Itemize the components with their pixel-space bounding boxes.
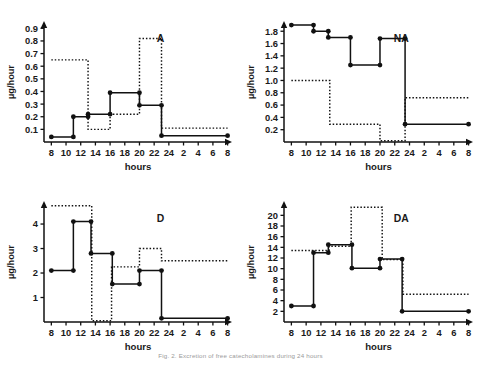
data-point xyxy=(311,23,316,28)
y-tick-label: 12 xyxy=(268,252,278,263)
y-tick-label: 1.0 xyxy=(265,75,278,86)
data-point xyxy=(466,122,471,127)
y-tick-label: 3 xyxy=(33,243,38,254)
x-tick-label: 24 xyxy=(404,147,415,158)
chart-NA: 8101214161820222424680.20.40.60.81.01.21… xyxy=(240,4,481,184)
data-point xyxy=(71,268,76,273)
x-tick-label: 8 xyxy=(225,147,230,158)
series-solid xyxy=(291,245,468,312)
y-tick-label: 0.6 xyxy=(25,61,38,72)
data-point xyxy=(89,219,94,224)
y-tick-label: 0.9 xyxy=(25,23,38,34)
x-tick-label: 2 xyxy=(181,147,186,158)
x-tick-label: 10 xyxy=(301,327,311,338)
y-tick-label: 0.4 xyxy=(265,112,279,123)
y-tick-label: 0.1 xyxy=(25,124,38,135)
panel-label: D xyxy=(157,213,165,224)
y-tick-label: 8 xyxy=(273,274,278,285)
series-dotted xyxy=(291,80,468,140)
y-tick-label: 2 xyxy=(273,306,278,317)
x-tick-label: 14 xyxy=(90,147,101,158)
x-tick-label: 22 xyxy=(149,147,159,158)
y-tick-label: 14 xyxy=(268,242,279,253)
data-point xyxy=(225,133,230,138)
x-tick-label: 12 xyxy=(316,147,326,158)
x-tick-label: 6 xyxy=(210,147,215,158)
series-dotted xyxy=(291,207,468,294)
data-point xyxy=(71,135,76,140)
figure-caption: Fig. 2. Excretion of free catecholamines… xyxy=(0,352,481,359)
y-tick-label: 4 xyxy=(33,218,39,229)
y-axis-label: µg/hour xyxy=(246,245,256,279)
x-tick-label: 20 xyxy=(375,327,385,338)
y-tick-label: 0.4 xyxy=(25,86,39,97)
x-tick-label: 4 xyxy=(436,147,442,158)
data-point xyxy=(289,23,294,28)
x-tick-label: 14 xyxy=(90,327,101,338)
x-tick-label: 14 xyxy=(330,147,341,158)
y-axis-label: µg/hour xyxy=(6,245,16,279)
data-point xyxy=(159,316,164,321)
x-tick-label: 2 xyxy=(422,147,427,158)
x-tick-label: 10 xyxy=(61,327,71,338)
x-tick-label: 4 xyxy=(196,147,202,158)
data-point xyxy=(326,29,331,34)
x-tick-label: 8 xyxy=(49,327,54,338)
y-tick-label: 0.7 xyxy=(25,48,38,59)
y-tick-label: 1 xyxy=(33,292,38,303)
y-tick-label: 10 xyxy=(268,263,278,274)
data-point xyxy=(110,282,115,287)
y-tick-label: 0.2 xyxy=(265,124,278,135)
y-axis-label: µg/hour xyxy=(6,65,16,99)
data-point xyxy=(378,266,383,271)
y-tick-label: 0.2 xyxy=(25,111,38,122)
y-tick-label: 20 xyxy=(268,210,278,221)
y-tick-label: 4 xyxy=(273,295,279,306)
y-tick-label: 16 xyxy=(268,231,278,242)
data-point xyxy=(137,282,142,287)
y-tick-label: 1.8 xyxy=(265,26,278,37)
x-tick-label: 2 xyxy=(422,327,427,338)
panel-A: 8101214161820222424680.10.20.30.40.50.60… xyxy=(0,4,240,184)
x-tick-label: 20 xyxy=(375,147,385,158)
x-tick-label: 4 xyxy=(436,327,442,338)
data-point xyxy=(89,251,94,256)
x-tick-label: 18 xyxy=(360,147,370,158)
x-tick-label: 8 xyxy=(289,147,294,158)
x-tick-label: 12 xyxy=(76,147,86,158)
data-point xyxy=(110,251,115,256)
data-point xyxy=(49,268,54,273)
x-tick-label: 4 xyxy=(196,327,202,338)
x-tick-label: 2 xyxy=(181,327,186,338)
y-tick-label: 0.5 xyxy=(25,73,38,84)
y-tick-label: 6 xyxy=(273,284,278,295)
data-point xyxy=(348,35,353,40)
data-point xyxy=(326,35,331,40)
x-tick-label: 16 xyxy=(105,327,115,338)
x-tick-label: 10 xyxy=(301,147,311,158)
x-tick-label: 16 xyxy=(345,147,355,158)
y-tick-label: 2 xyxy=(33,267,38,278)
x-tick-label: 8 xyxy=(289,327,294,338)
data-point xyxy=(378,36,383,41)
data-point xyxy=(71,114,76,119)
x-tick-label: 24 xyxy=(164,147,175,158)
x-tick-label: 14 xyxy=(330,327,341,338)
data-point xyxy=(289,304,294,309)
x-tick-label: 6 xyxy=(451,327,456,338)
x-tick-label: 18 xyxy=(360,327,370,338)
y-tick-label: 0.8 xyxy=(265,87,278,98)
x-tick-label: 6 xyxy=(451,147,456,158)
data-point xyxy=(159,133,164,138)
data-point xyxy=(49,135,54,140)
data-point xyxy=(400,309,405,314)
data-point xyxy=(108,90,113,95)
y-tick-label: 0.8 xyxy=(25,35,38,46)
x-tick-label: 8 xyxy=(466,147,471,158)
x-tick-label: 20 xyxy=(134,147,144,158)
x-tick-label: 22 xyxy=(390,327,400,338)
x-tick-label: 18 xyxy=(120,147,130,158)
data-point xyxy=(137,268,142,273)
panel-D: 8101214161820222424681234µg/hourhoursD xyxy=(0,184,240,364)
panel-label: DA xyxy=(394,213,410,224)
